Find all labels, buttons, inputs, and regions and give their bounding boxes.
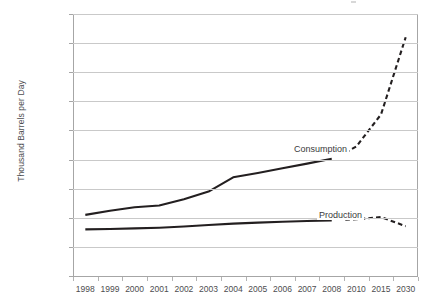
y-tick-mark [69, 72, 73, 73]
series-label-production: Production [317, 210, 364, 220]
y-axis-title: Thousand Barrels per Day [16, 31, 26, 231]
x-tick-label: 2005 [248, 284, 267, 294]
x-tick-label: 1998 [76, 284, 95, 294]
x-tick-mark [122, 277, 123, 281]
x-tick-label: 2015 [372, 284, 391, 294]
y-tick-mark [69, 130, 73, 131]
x-tick-mark [221, 277, 222, 281]
y-tick-mark [69, 160, 73, 161]
series-paths [85, 37, 405, 229]
x-tick-label: 2006 [273, 284, 292, 294]
x-tick-mark [246, 277, 247, 281]
x-tick-mark [295, 277, 296, 281]
series-line-consumption-forecast [345, 37, 405, 152]
gridline [73, 72, 418, 73]
x-tick-mark [270, 277, 271, 281]
x-tick-label: 2008 [322, 284, 341, 294]
x-tick-mark [172, 277, 173, 281]
x-tick-mark [319, 277, 320, 281]
x-tick-label: 2002 [174, 284, 193, 294]
x-tick-label: 2000 [125, 284, 144, 294]
x-tick-label: 2030 [396, 284, 415, 294]
series-label-consumption: Consumption [292, 144, 349, 154]
line-chart: Thousand Barrels per Day 18,00016,00014,… [0, 0, 435, 300]
gridline [73, 43, 418, 44]
x-tick-mark [344, 277, 345, 281]
series-layer [73, 14, 418, 276]
gridline [73, 247, 418, 248]
x-tick-label: 2004 [224, 284, 243, 294]
x-tick-label: 1999 [100, 284, 119, 294]
series-line-consumption-historical [85, 159, 331, 215]
title-crop-artifact [351, 1, 356, 3]
y-tick-mark [69, 247, 73, 248]
y-tick-mark [69, 101, 73, 102]
y-tick-mark [69, 43, 73, 44]
x-tick-label: 2007 [298, 284, 317, 294]
plot-area [73, 14, 418, 276]
gridline [73, 189, 418, 190]
x-tick-mark [418, 277, 419, 281]
gridline [73, 14, 418, 15]
x-tick-mark [147, 277, 148, 281]
x-tick-label: 2001 [150, 284, 169, 294]
gridline [73, 130, 418, 131]
y-tick-mark [69, 14, 73, 15]
x-tick-mark [369, 277, 370, 281]
y-tick-mark [69, 218, 73, 219]
x-tick-label: 2003 [199, 284, 218, 294]
y-tick-mark [69, 189, 73, 190]
x-tick-label: 2010 [347, 284, 366, 294]
gridline [73, 101, 418, 102]
series-line-production-historical [85, 220, 331, 229]
x-tick-mark [73, 277, 74, 281]
gridline [73, 218, 418, 219]
x-tick-mark [196, 277, 197, 281]
x-tick-mark [98, 277, 99, 281]
x-tick-mark [393, 277, 394, 281]
gridline [73, 160, 418, 161]
